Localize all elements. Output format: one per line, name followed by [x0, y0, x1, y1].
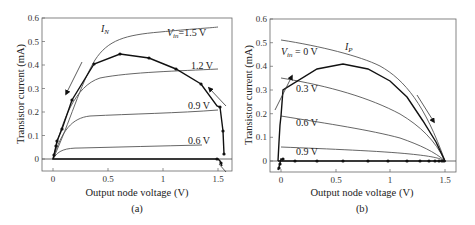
xtick-label: 0 [51, 174, 56, 184]
xtick-label: 0 [279, 175, 284, 185]
panel-caption-a: (a) [131, 203, 143, 215]
ytick-label: 0.6 [28, 13, 40, 23]
arrow-down-left-icon [66, 62, 82, 94]
arrow-down-right-icon [417, 95, 434, 122]
ytick-label: 0 [263, 156, 268, 166]
ytick-label: 0 [35, 154, 40, 164]
xtick-label: 1 [161, 174, 166, 184]
label-ip: IP [344, 41, 353, 54]
x-ticks-a [53, 168, 218, 171]
label-vin-1.5: Vin=1.5 V [167, 27, 207, 40]
arrow-up-right-icon [275, 76, 292, 110]
ytick-label: 0.3 [256, 85, 268, 95]
ytick-label: 0.6 [256, 14, 268, 24]
ytick-label: 0.5 [28, 37, 40, 47]
y-axis-label-a: Transistor current (mA) [15, 44, 27, 144]
ytick-label: 0.1 [28, 131, 39, 141]
y-tick-labels-a: 0 0.1 0.2 0.3 0.4 0.5 0.6 [28, 13, 40, 164]
xtick-label: 0.5 [102, 174, 114, 184]
panel-b: 0 0.1 0.2 0.3 0.4 0.5 0.6 0 0.5 1 1.5 Ou… [243, 14, 456, 215]
x-axis-label-b: Output node voltage (V) [311, 187, 414, 199]
ytick-label: 0.3 [28, 84, 40, 94]
curve-vin-0.6 [53, 145, 202, 159]
label-vin-0: Vin = 0 V [281, 46, 319, 59]
x-ticks-b [281, 169, 445, 172]
x-tick-labels-b: 0 0.5 1 1.5 [279, 175, 451, 185]
label-vin-0.9: 0.9 V [188, 100, 211, 111]
panel-a: 0 0.1 0.2 0.3 0.4 0.5 0.6 0 0.5 1 1.5 Ou… [15, 13, 232, 215]
arrow-up-left-icon [209, 88, 226, 106]
ytick-label: 0.2 [256, 109, 267, 119]
y-ticks-a [42, 18, 45, 159]
label-vin-0.9: 0.9 V [296, 146, 319, 157]
ytick-label: 0.2 [28, 107, 39, 117]
ytick-label: 0.5 [256, 38, 268, 48]
xtick-label: 1.5 [212, 174, 224, 184]
xtick-label: 0.5 [330, 175, 342, 185]
panel-caption-b: (b) [356, 203, 369, 215]
label-vin-0.6: 0.6 V [188, 135, 211, 146]
label-vin-0.3: 0.3 V [296, 83, 319, 94]
label-vin-0.6: 0.6 V [296, 117, 319, 128]
y-ticks-b [270, 19, 273, 161]
ytick-label: 0.4 [256, 61, 268, 71]
y-tick-labels-b: 0 0.1 0.2 0.3 0.4 0.5 0.6 [256, 14, 268, 166]
x-tick-labels-a: 0 0.5 1 1.5 [51, 174, 224, 184]
label-in: IN [100, 23, 109, 36]
x-axis-label-a: Output node voltage (V) [86, 187, 189, 199]
ytick-label: 0.1 [256, 132, 267, 142]
ytick-label: 0.4 [28, 60, 40, 70]
figure: 0 0.1 0.2 0.3 0.4 0.5 0.6 0 0.5 1 1.5 Ou… [0, 0, 475, 225]
xtick-label: 1.5 [439, 175, 451, 185]
xtick-label: 1 [388, 175, 393, 185]
y-axis-label-b: Transistor current (mA) [243, 45, 255, 145]
label-vin-1.2: 1.2 V [191, 60, 214, 71]
